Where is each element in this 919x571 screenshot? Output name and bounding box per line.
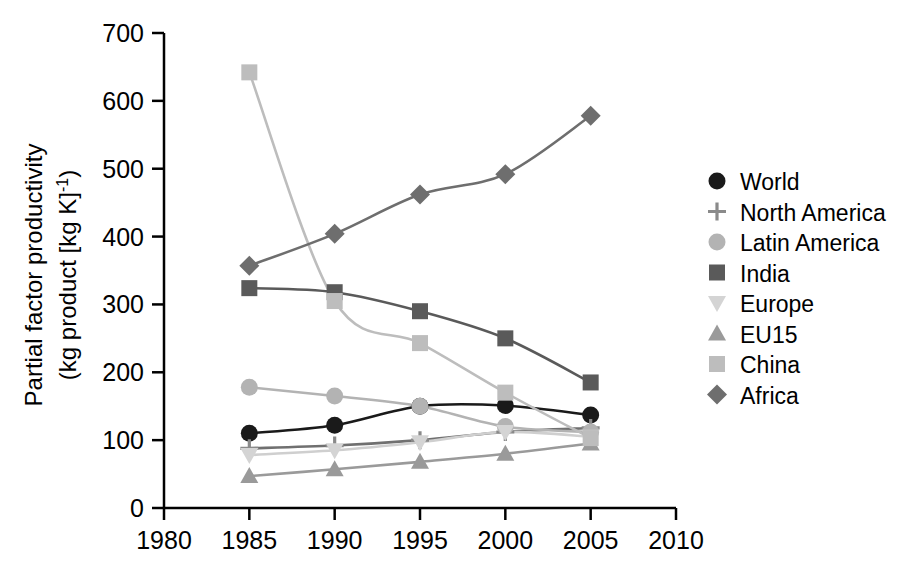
y-tick-label: 300 [102,290,144,318]
data-point-marker [241,280,257,296]
x-tick-label: 1990 [307,526,363,554]
legend-label: World [740,169,800,195]
legend-label: North America [740,200,886,226]
x-tick-label: 1980 [136,526,192,554]
data-point-marker [326,388,343,405]
y-axis-title-line1: Partial factor productivity [20,144,47,407]
y-tick-label: 200 [102,358,144,386]
legend-label: Europe [740,291,814,317]
data-point-marker [412,303,428,319]
x-tick-label: 1995 [392,526,448,554]
data-point-marker [241,64,257,80]
data-point-marker [497,385,513,401]
y-axis-title-line2-main: (kg product [kg K] [54,192,81,380]
data-point-marker [709,234,726,251]
legend-label: China [740,352,800,378]
y-tick-label: 0 [130,494,144,522]
y-tick-label: 100 [102,426,144,454]
y-tick-label: 400 [102,223,144,251]
data-point-marker [326,417,343,434]
x-tick-label: 1985 [222,526,278,554]
legend-label: India [740,261,790,287]
legend-label: EU15 [740,322,798,348]
legend-label: Latin America [740,230,880,256]
data-point-marker [709,173,726,190]
data-point-marker [241,379,258,396]
legend-label: Africa [740,383,799,409]
data-point-marker [412,335,428,351]
y-tick-label: 600 [102,87,144,115]
x-tick-label: 2010 [648,526,704,554]
line-chart-svg: Partial factor productivity (kg product … [0,0,919,571]
y-axis-title-line2: (kg product [kg K]-1) [54,170,81,380]
x-tick-label: 2000 [478,526,534,554]
data-point-marker [583,430,599,446]
data-point-marker [583,374,599,390]
data-point-marker [412,398,429,415]
y-axis-title-superscript: -1 [54,178,71,192]
data-point-marker [497,330,513,346]
data-point-marker [709,356,725,372]
y-tick-label: 500 [102,155,144,183]
y-axis-title-line2-tail: ) [54,170,81,178]
y-tick-label: 700 [102,19,144,47]
data-point-marker [709,265,725,281]
data-point-marker [327,293,343,309]
x-tick-label: 2005 [563,526,619,554]
chart-figure: Partial factor productivity (kg product … [0,0,919,571]
